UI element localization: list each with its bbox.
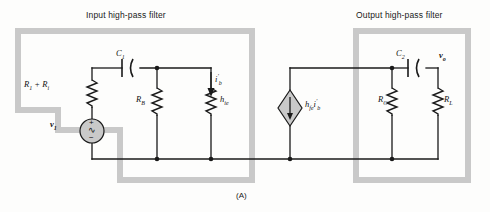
node-bottom-dep [288,157,293,162]
capacitor-c2 [408,59,419,77]
label-rc: RC [378,94,387,106]
circuit-figure: Input high-pass filter Output high-pass … [0,0,490,212]
label-ib: i'b [215,73,222,86]
label-c1: C1 [116,48,125,60]
label-rl: RL [444,94,453,106]
node-top-rc [390,66,395,71]
circuit-schematic-svg [0,0,490,212]
output-filter-title: Output high-pass filter [356,10,443,20]
node-bottom-rb [155,157,160,162]
label-hfe-ib: hfei'b [305,98,320,111]
source-minus-sign: − [89,134,94,142]
label-rb: RB [136,94,145,106]
label-r1-plus-ri: R1 + Ri [24,79,49,91]
capacitor-c1 [122,59,133,77]
node-top-rb [155,66,160,71]
circuit-wires [92,68,438,159]
dependent-current-source [278,90,302,126]
c1-plate-right [131,59,134,77]
node-bottom-hie [209,157,214,162]
resistor-rb [152,88,162,116]
resistor-rc [387,88,397,116]
label-vo: vo [439,50,446,62]
resistor-r1-ri [87,80,97,108]
input-filter-highlight [18,31,252,180]
label-v1: v1 [50,119,57,131]
input-filter-title: Input high-pass filter [86,10,166,20]
resistor-rl [433,88,443,116]
figure-caption: (A) [236,191,247,200]
label-hie: hie [220,94,229,106]
c2-plate-right [417,59,420,77]
label-c2: C2 [396,48,405,60]
node-bottom-rc [390,157,395,162]
